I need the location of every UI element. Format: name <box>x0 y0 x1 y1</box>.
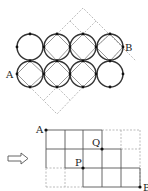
label-p-grid: P <box>75 157 82 168</box>
label-a-top: A <box>5 69 14 80</box>
point-p <box>81 166 84 169</box>
arrow-icon <box>8 153 28 164</box>
point-a <box>44 128 47 131</box>
label-a-grid: A <box>35 124 44 135</box>
label-b-top: B <box>125 42 132 53</box>
diagram-figure: A B A Q P B <box>0 0 148 191</box>
circles-grid <box>17 34 123 87</box>
label-q-grid: Q <box>92 137 100 148</box>
inscribed-squares <box>17 34 123 87</box>
point-b <box>138 185 141 188</box>
point-q <box>100 147 103 150</box>
label-b-grid: B <box>143 182 148 191</box>
